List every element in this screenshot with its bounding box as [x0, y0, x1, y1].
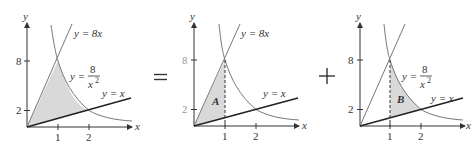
y-tick-label-2: 2 [16, 104, 22, 116]
svg-text:x: x [87, 78, 93, 90]
plus-sign [319, 68, 335, 84]
shaded-region-B [390, 60, 421, 118]
svg-text:2: 2 [95, 76, 99, 85]
x-axis-label: x [465, 119, 471, 131]
y-axis-label: y [22, 10, 28, 22]
equals-sign [154, 75, 167, 80]
x-axis-label: x [134, 120, 140, 132]
y-tick-label-8: 8 [16, 55, 22, 67]
y-tick-label-2: 2 [348, 103, 354, 115]
y-tick-label-2: 2 [182, 103, 188, 115]
panel-region-B: y x 8 2 1 2 y = 8 x 2 y = x B [348, 10, 471, 142]
panel-region-A: y x 8 2 1 2 y = 8x y = x A [182, 10, 307, 142]
y-tick-label-8: 8 [348, 54, 354, 66]
x-tick-label-1: 1 [55, 131, 61, 143]
label-y-8-over-x2: y = 8 x 2 [401, 63, 432, 90]
y-axis-label: y [355, 10, 361, 22]
svg-text:2: 2 [427, 76, 431, 85]
svg-text:8: 8 [90, 63, 96, 75]
svg-text:8: 8 [422, 63, 428, 75]
area-decomposition-diagram: y x 8 2 1 2 y = 8x y = 8 x 2 y = x y x [0, 0, 475, 146]
x-tick-label-2: 2 [418, 130, 424, 142]
x-tick-label-1: 1 [387, 130, 393, 142]
region-label-B: B [396, 93, 404, 105]
label-y-8-over-x2: y = 8 x 2 [69, 63, 100, 90]
x-tick-label-1: 1 [222, 130, 228, 142]
label-y-x: y = x [430, 92, 454, 104]
label-y-8x: y = 8x [240, 27, 269, 39]
svg-text:x: x [419, 78, 425, 90]
y-tick-label-8: 8 [182, 54, 188, 66]
x-tick-label-2: 2 [86, 131, 92, 143]
x-axis-label: x [301, 119, 307, 131]
region-label-A: A [211, 95, 219, 107]
label-y-x: y = x [101, 87, 125, 99]
label-y-x: y = x [262, 87, 286, 99]
svg-text:y =: y = [401, 70, 417, 82]
panel-total-region: y x 8 2 1 2 y = 8x y = 8 x 2 y = x [16, 10, 140, 143]
label-y-8x: y = 8x [73, 27, 102, 39]
y-axis-label: y [189, 10, 195, 22]
x-tick-label-2: 2 [253, 130, 259, 142]
svg-text:y =: y = [69, 70, 85, 82]
